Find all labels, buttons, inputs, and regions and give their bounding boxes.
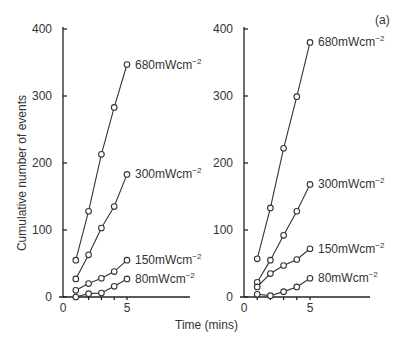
y-tick-label: 400 xyxy=(32,22,52,36)
data-point xyxy=(99,275,105,281)
data-point xyxy=(99,151,105,157)
data-point xyxy=(86,208,92,214)
panel-label: (a) xyxy=(375,13,390,27)
series-label: 300mWcm−2 xyxy=(318,176,385,191)
series-label: 80mWcm−2 xyxy=(318,270,378,285)
data-point xyxy=(124,172,130,178)
data-point xyxy=(281,145,287,151)
data-point xyxy=(294,284,300,290)
data-point xyxy=(73,294,79,300)
data-point xyxy=(254,284,260,290)
x-tick-label: 0 xyxy=(241,301,248,315)
data-point xyxy=(99,290,105,296)
data-point xyxy=(86,281,92,287)
data-point xyxy=(73,276,79,282)
y-tick-label: 0 xyxy=(226,290,233,304)
data-point xyxy=(124,276,130,282)
series-label: 680mWcm−2 xyxy=(318,34,385,49)
data-point xyxy=(307,182,313,188)
data-point xyxy=(294,208,300,214)
series-label: 80mWcm−2 xyxy=(135,271,195,286)
x-tick-label: 5 xyxy=(124,301,131,315)
y-tick-label: 100 xyxy=(32,223,52,237)
data-point xyxy=(86,291,92,297)
data-point xyxy=(307,246,313,252)
data-point xyxy=(73,257,79,263)
series-label: 150mWcm−2 xyxy=(318,241,385,256)
data-point xyxy=(99,225,105,231)
data-point xyxy=(111,105,117,111)
data-point xyxy=(281,263,287,269)
data-point xyxy=(281,233,287,239)
data-point xyxy=(294,257,300,263)
y-tick-label: 300 xyxy=(213,89,233,103)
x-tick-label: 5 xyxy=(307,301,314,315)
data-point xyxy=(307,275,313,281)
data-point xyxy=(268,271,274,277)
x-tick-label: 0 xyxy=(60,301,67,315)
y-tick-label: 400 xyxy=(213,22,233,36)
data-point xyxy=(124,62,130,68)
series-label: 680mWcm−2 xyxy=(135,57,202,72)
data-point xyxy=(294,94,300,100)
y-tick-label: 200 xyxy=(213,156,233,170)
figure: 010020030040005680mWcm−2300mWcm−2150mWcm… xyxy=(0,0,410,350)
series-label: 150mWcm−2 xyxy=(135,252,202,267)
data-point xyxy=(73,288,79,294)
data-point xyxy=(254,292,260,298)
data-point xyxy=(307,40,313,46)
y-tick-label: 100 xyxy=(213,223,233,237)
ylabel: Cumulative number of events xyxy=(15,93,29,253)
y-tick-label: 200 xyxy=(32,156,52,170)
xlabel: Time (mins) xyxy=(175,318,238,332)
y-tick-label: 300 xyxy=(32,89,52,103)
chart-panel-1: 010020030040005680mWcm−2300mWcm−2150mWcm… xyxy=(32,22,202,315)
data-point xyxy=(111,283,117,289)
data-point xyxy=(268,205,274,211)
data-point xyxy=(111,204,117,210)
data-point xyxy=(268,293,274,299)
data-point xyxy=(268,257,274,263)
chart-panel-2: 010020030040005680mWcm−2300mWcm−2150mWcm… xyxy=(213,22,385,315)
data-point xyxy=(86,252,92,258)
series-label: 300mWcm−2 xyxy=(135,166,202,181)
data-point xyxy=(124,257,130,263)
data-point xyxy=(281,289,287,295)
data-point xyxy=(111,269,117,275)
y-tick-label: 0 xyxy=(45,290,52,304)
data-point xyxy=(254,256,260,262)
